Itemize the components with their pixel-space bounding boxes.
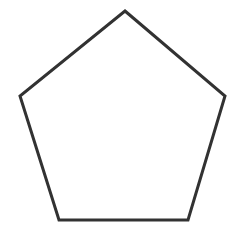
figure-canvas: Regular pentagon outline: [0, 0, 237, 231]
pentagon-svg: [0, 0, 237, 231]
